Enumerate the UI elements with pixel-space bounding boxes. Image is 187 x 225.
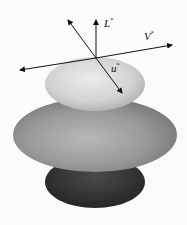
label-u: u*	[111, 62, 120, 74]
u-vector-back	[68, 20, 96, 58]
v-vector	[96, 45, 172, 58]
diagram-canvas	[0, 0, 187, 225]
label-v: V*	[144, 30, 154, 42]
top-ellipsoid	[45, 57, 145, 111]
label-l: L*	[104, 17, 113, 29]
